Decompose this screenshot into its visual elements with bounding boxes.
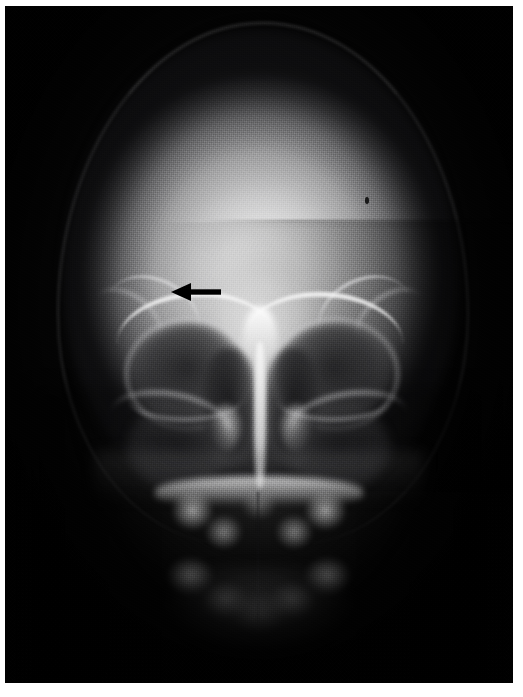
facial-skeleton (5, 6, 513, 683)
lateral-soft-tissue-left (33, 386, 153, 683)
xray-film (5, 6, 513, 683)
mandible-shadow (151, 566, 367, 672)
pointer-arrow-icon (167, 280, 224, 304)
lateral-soft-tissue-right (365, 386, 485, 683)
radiograph-page (0, 0, 523, 697)
